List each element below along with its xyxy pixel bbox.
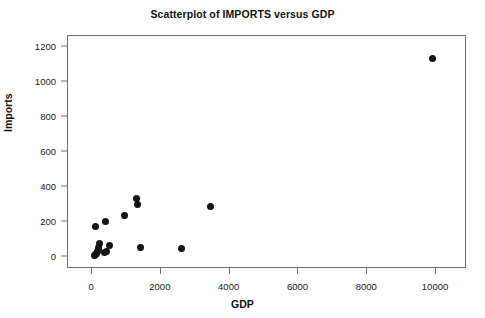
data-point xyxy=(96,240,103,247)
x-tick-mark xyxy=(160,268,161,274)
data-point xyxy=(121,212,128,219)
y-tick-label: 1200 xyxy=(35,41,56,52)
data-point xyxy=(134,201,141,208)
y-tick-label: 0 xyxy=(51,250,56,261)
x-tick-label: 6000 xyxy=(287,281,308,292)
data-point xyxy=(178,245,185,252)
data-point xyxy=(92,223,99,230)
x-tick-mark xyxy=(297,268,298,274)
x-tick-label: 8000 xyxy=(356,281,377,292)
data-point xyxy=(137,244,144,251)
y-tick-label: 200 xyxy=(40,215,56,226)
y-axis-label: Imports xyxy=(2,93,14,132)
x-tick-mark xyxy=(435,268,436,274)
data-point xyxy=(102,218,109,225)
x-tick-mark xyxy=(91,268,92,274)
x-tick-label: 2000 xyxy=(149,281,170,292)
data-point xyxy=(429,55,436,62)
x-axis: GDP 0200040006000800010000 xyxy=(0,268,485,318)
y-tick-label: 800 xyxy=(40,111,56,122)
x-axis-label: GDP xyxy=(0,298,485,310)
data-point xyxy=(207,203,214,210)
x-tick-label: 0 xyxy=(88,281,93,292)
y-tick-label: 600 xyxy=(40,146,56,157)
x-tick-label: 10000 xyxy=(422,281,448,292)
plot-area xyxy=(67,35,466,268)
y-tick-label: 1000 xyxy=(35,76,56,87)
data-point xyxy=(103,248,110,255)
x-tick-mark xyxy=(366,268,367,274)
chart-title: Scatterplot of IMPORTS versus GDP xyxy=(0,8,485,20)
data-points-layer xyxy=(68,36,465,267)
y-tick-label: 400 xyxy=(40,180,56,191)
scatterplot-figure: Scatterplot of IMPORTS versus GDP Import… xyxy=(0,0,485,318)
x-tick-mark xyxy=(229,268,230,274)
x-tick-label: 4000 xyxy=(218,281,239,292)
data-point xyxy=(106,242,113,249)
